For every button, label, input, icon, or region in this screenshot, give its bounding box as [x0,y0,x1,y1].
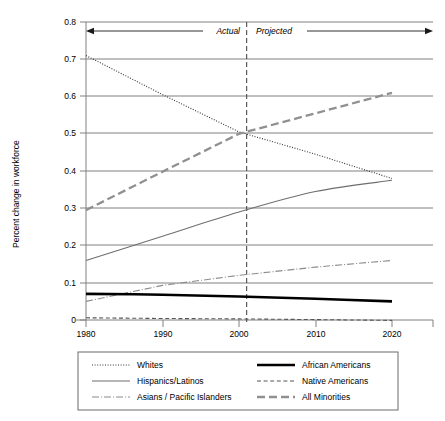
series-line-hispanics-latinos [86,180,392,260]
legend-label-asians-pacific-islanders[interactable]: Asians / Pacific Islanders [137,392,231,402]
y-tick-label-0.2: 0.2 [64,240,76,250]
projected-label: Projected [256,26,292,36]
y-tick-label-0.4: 0.4 [64,166,76,176]
legend-label-all-minorities[interactable]: All Minorities [302,392,350,402]
gridlines [76,22,433,320]
series-line-whites [86,56,392,179]
legend-label-hispanics-latinos[interactable]: Hispanics/Latinos [137,376,204,386]
x-tick-label-1980: 1980 [77,329,96,339]
y-tick-label-0.3: 0.3 [64,203,76,213]
legend-label-whites[interactable]: Whites [137,360,163,370]
y-tick-label-0.6: 0.6 [64,91,76,101]
projected-arrow-head-icon [425,28,433,34]
y-axis [80,22,86,320]
x-axis: 1980 1990 2000 2010 2020 [77,320,433,339]
y-tick-label-0.5: 0.5 [64,128,76,138]
legend-label-african-americans[interactable]: African Americans [302,360,371,370]
actual-arrow-head-icon [86,28,94,34]
x-tick-label-2010: 2010 [307,329,326,339]
chart-legend: Whites African Americans Hispanics/Latin… [78,352,398,410]
x-tick-label-1990: 1990 [154,329,173,339]
legend-label-native-americans[interactable]: Native Americans [302,376,368,386]
y-tick-label-0.1: 0.1 [64,278,76,288]
x-tick-label-2000: 2000 [230,329,249,339]
x-tick-label-2020: 2020 [383,329,402,339]
y-tick-labels: 0.8 0.7 0.6 0.5 0.4 0.3 0.2 0.1 0 [64,17,76,325]
y-tick-label-0: 0 [71,315,76,325]
y-tick-label-0.7: 0.7 [64,54,76,64]
series-line-african-americans [86,294,392,302]
y-axis-title: Percent change in workforce [11,140,21,248]
actual-label: Actual [215,26,241,36]
series-line-all-minorities [86,93,392,210]
y-tick-label-0.8: 0.8 [64,17,76,27]
workforce-change-line-chart: Percent change in workforce [0,0,445,421]
actual-projected-annotation: Actual Projected [86,26,433,36]
chart-figure: Percent change in workforce [0,0,445,421]
